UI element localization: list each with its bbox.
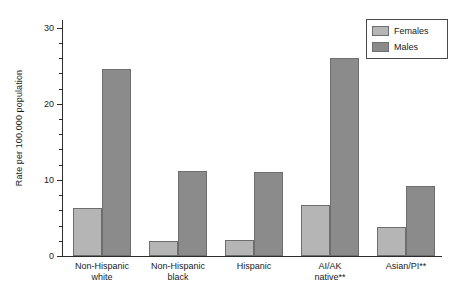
y-tick-mark	[57, 104, 62, 105]
y-tick-label: 0	[49, 251, 54, 261]
y-minor-tick	[59, 73, 62, 74]
legend-swatch-males	[372, 42, 389, 52]
bar-males-2	[178, 171, 207, 256]
y-tick-label: 30	[44, 23, 54, 33]
y-minor-tick	[59, 58, 62, 59]
legend-item-females: Females	[372, 24, 442, 37]
category-label-2: Non-Hispanic black	[151, 261, 205, 283]
legend-item-males: Males	[372, 40, 442, 53]
y-minor-tick	[59, 89, 62, 90]
y-minor-tick	[59, 210, 62, 211]
legend: FemalesMales	[366, 19, 448, 59]
y-minor-tick	[59, 119, 62, 120]
y-axis-title: Rate per 100,000 population	[8, 0, 30, 256]
y-minor-tick	[59, 226, 62, 227]
y-minor-tick	[59, 195, 62, 196]
y-tick-mark	[57, 256, 62, 257]
bar-males-1	[102, 69, 131, 256]
y-minor-tick	[59, 149, 62, 150]
y-minor-tick	[59, 241, 62, 242]
bar-females-1	[73, 208, 102, 256]
legend-label: Males	[394, 42, 418, 52]
y-axis-line	[62, 20, 63, 256]
bar-males-3	[254, 172, 283, 256]
category-label-5: Asian/PI**	[386, 261, 427, 272]
y-minor-tick	[59, 134, 62, 135]
legend-label: Females	[394, 26, 429, 36]
x-axis-line	[62, 256, 442, 257]
y-minor-tick	[59, 43, 62, 44]
category-label-3: Hispanic	[237, 261, 272, 272]
bar-females-4	[301, 205, 330, 256]
category-label-4: AI/AK native**	[314, 261, 345, 283]
y-tick-mark	[57, 28, 62, 29]
category-label-1: Non-Hispanic white	[75, 261, 129, 283]
bar-males-4	[330, 58, 359, 256]
bar-chart: Rate per 100,000 population 0102030 Non-…	[0, 0, 459, 303]
bar-females-2	[149, 241, 178, 256]
bar-females-3	[225, 240, 254, 256]
y-tick-mark	[57, 180, 62, 181]
y-tick-label: 20	[44, 99, 54, 109]
legend-swatch-females	[372, 26, 389, 36]
y-tick-label: 10	[44, 175, 54, 185]
bar-females-5	[377, 227, 406, 256]
y-minor-tick	[59, 165, 62, 166]
bar-males-5	[406, 186, 435, 256]
